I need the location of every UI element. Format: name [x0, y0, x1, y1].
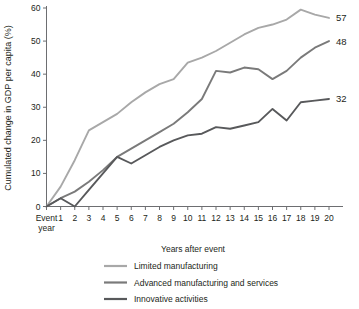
y-axis-ticks: 0102030405060 — [31, 3, 46, 212]
x-tick-label: 7 — [143, 213, 148, 223]
x-tick-label: 3 — [87, 213, 92, 223]
series-line-innovative-activities — [47, 99, 330, 207]
legend-label-2: Innovative activities — [134, 294, 208, 304]
x-tick-label: 15 — [254, 213, 264, 223]
x-tick-label: 8 — [157, 213, 162, 223]
x-tick-label: 9 — [171, 213, 176, 223]
x-tick-label: 4 — [101, 213, 106, 223]
x-tick-label: 11 — [197, 213, 206, 223]
x-tick-label-event-line1: Event — [36, 213, 58, 223]
y-tick-label: 40 — [31, 69, 41, 79]
x-tick-label: 17 — [282, 213, 292, 223]
y-tick-label: 20 — [31, 135, 41, 145]
x-tick-label: 14 — [240, 213, 250, 223]
y-tick-label: 0 — [36, 202, 41, 212]
x-tick-label: 2 — [72, 213, 77, 223]
x-axis-title: Years after event — [161, 244, 226, 254]
y-tick-label: 50 — [31, 36, 41, 46]
x-axis-ticks: Eventyear1234567891011121314151617181920 — [36, 207, 334, 233]
x-tick-label-event-line2: year — [38, 223, 55, 233]
x-tick-label: 6 — [129, 213, 134, 223]
series-line-advanced-manufacturing-and-services — [47, 41, 330, 206]
x-tick-label: 5 — [115, 213, 120, 223]
x-tick-label: 13 — [225, 213, 235, 223]
line-chart-svg: Cumulated change in GDP per capita (%) 0… — [0, 0, 359, 309]
y-tick-label: 30 — [31, 102, 41, 112]
x-tick-label: 19 — [310, 213, 320, 223]
end-value-labels: 574832 — [336, 12, 347, 104]
x-tick-label: 1 — [58, 213, 63, 223]
y-tick-label: 60 — [31, 3, 41, 13]
x-tick-label: 18 — [296, 213, 306, 223]
x-tick-label: 20 — [324, 213, 334, 223]
legend-label-1: Advanced manufacturing and services — [134, 278, 278, 288]
series-group — [47, 10, 330, 207]
series-line-limited-manufacturing — [47, 10, 330, 207]
end-label-57: 57 — [336, 12, 347, 23]
y-axis-title: Cumulated change in GDP per capita (%) — [3, 25, 13, 190]
chart-figure: Cumulated change in GDP per capita (%) 0… — [0, 0, 359, 309]
legend-label-0: Limited manufacturing — [134, 261, 218, 271]
x-tick-label: 10 — [183, 213, 193, 223]
x-tick-label: 12 — [211, 213, 221, 223]
end-label-48: 48 — [336, 36, 347, 47]
y-tick-label: 10 — [31, 168, 41, 178]
end-label-32: 32 — [336, 93, 347, 104]
x-tick-label: 16 — [268, 213, 278, 223]
chart-legend: Limited manufacturingAdvanced manufactur… — [104, 261, 278, 304]
